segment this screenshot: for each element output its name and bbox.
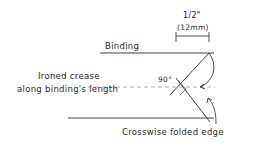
binding-label: Binding xyxy=(105,42,139,51)
folded-edge-pointer xyxy=(208,98,216,124)
measurement-inches: 1/2" xyxy=(183,12,201,20)
folded-edge-label: Crosswise folded edge xyxy=(122,128,224,137)
crease-label-line1: Ironed crease xyxy=(38,72,100,81)
angle-label: 90° xyxy=(158,76,172,84)
measurement-mm: (12mm) xyxy=(177,24,209,32)
binding-fold-diagram: 1/2" (12mm) Binding Ironed crease along … xyxy=(0,0,253,154)
crease-label-line2: along binding's length xyxy=(17,85,118,94)
fold-curve xyxy=(201,53,214,87)
